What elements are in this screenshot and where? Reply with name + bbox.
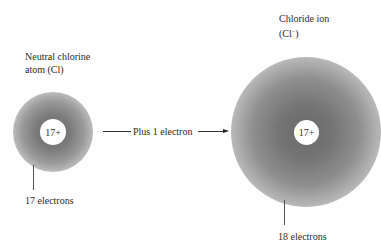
ion-nucleus-charge: 17+: [299, 127, 315, 138]
atom-title: Neutral chlorine atom (Cl): [25, 50, 90, 76]
ion-electrons-pointer: [284, 200, 285, 225]
atom-title-line1: Neutral chlorine: [25, 50, 90, 63]
arrowhead-icon: [223, 129, 229, 133]
atom-electrons-label: 17 electrons: [25, 194, 74, 207]
ion-nucleus: 17+: [294, 120, 319, 145]
atom-electrons-pointer: [33, 165, 34, 190]
ion-title-line2: (Cl−): [279, 25, 329, 40]
transition-label: Plus 1 electron: [133, 125, 192, 138]
ion-electrons-label: 18 electrons: [278, 230, 327, 243]
atom-title-line2: atom (Cl): [25, 63, 90, 76]
ion-title-line1: Chloride ion: [279, 12, 329, 25]
ion-title: Chloride ion (Cl−): [279, 12, 329, 40]
atom-nucleus: 17+: [40, 119, 66, 145]
arrow-line-left: [103, 131, 131, 132]
atom-nucleus-charge: 17+: [45, 127, 61, 138]
arrow-line-right: [198, 131, 224, 132]
